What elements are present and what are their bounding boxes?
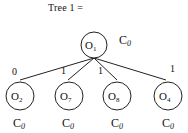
child-cost-1: C0 [13, 116, 25, 131]
child-cost-4: C0 [162, 116, 174, 131]
child-node-2: O7 [55, 82, 83, 110]
edges [20, 58, 166, 80]
edge-label-4: 1 [170, 63, 175, 74]
child-node-4: O4 [154, 82, 182, 110]
root-cost: C0 [119, 33, 131, 48]
edge-root-child-1 [20, 58, 94, 80]
child-cost-3: C0 [111, 116, 123, 131]
edge-label-1: 0 [12, 66, 17, 77]
child-node-1: O2 [6, 82, 34, 110]
child-node-3: O8 [103, 82, 131, 110]
edge-root-child-2 [68, 58, 94, 80]
edge-label-3: 1 [98, 65, 103, 76]
tree-diagram: 0 1 1 1 O1 C0 O2 O7 O8 O4 C0 C0 C0 C0 [0, 0, 188, 133]
root-node: O1 [81, 32, 107, 58]
child-cost-2: C0 [62, 116, 74, 131]
edge-label-2: 1 [61, 65, 66, 76]
